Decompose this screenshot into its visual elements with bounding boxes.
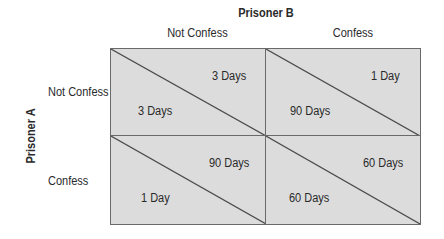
column-label-confess: Confess [333, 26, 373, 40]
row-player-label: Prisoner A [24, 108, 38, 163]
column-label-not-confess: Not Confess [167, 26, 228, 40]
payoff-prisoner-b: 3 Days [212, 69, 246, 83]
payoff-prisoner-a: 60 Days [289, 191, 329, 205]
diagonal-divider [111, 136, 266, 224]
cell-confess-confess: 60 Days 60 Days [265, 135, 421, 225]
payoff-prisoner-a: 90 Days [290, 104, 330, 118]
payoff-prisoner-a: 3 Days [138, 104, 172, 118]
payoff-prisoner-b: 1 Day [371, 69, 400, 83]
row-label-confess: Confess [48, 174, 88, 188]
cell-not-confess-not-confess: 3 Days 3 Days [110, 48, 267, 137]
cell-confess-not-confess: 90 Days 1 Day [110, 135, 267, 225]
diagonal-divider [266, 136, 420, 224]
row-label-not-confess: Not Confess [48, 85, 109, 99]
payoff-prisoner-b: 60 Days [363, 156, 403, 170]
diagonal-divider [111, 49, 266, 136]
payoff-prisoner-a: 1 Day [141, 191, 170, 205]
cell-not-confess-confess: 1 Day 90 Days [265, 48, 421, 137]
column-player-label: Prisoner B [32, 6, 423, 20]
diagonal-divider [266, 49, 420, 136]
payoff-matrix: 3 Days 3 Days 1 Day 90 Days 90 Days 1 Da… [110, 48, 421, 225]
payoff-prisoner-b: 90 Days [209, 156, 249, 170]
